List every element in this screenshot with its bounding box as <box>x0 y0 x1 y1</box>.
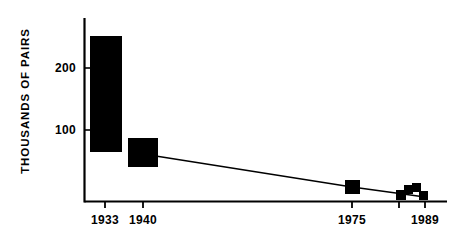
data-marker-1933-range-bar <box>90 36 122 152</box>
x-tick-label-1940: 1940 <box>120 213 166 227</box>
data-marker-1989-square-c <box>412 183 421 192</box>
data-marker-1989-square-b <box>404 185 413 194</box>
y-tick-label-100: 100 <box>40 123 76 137</box>
y-tick-label-200: 200 <box>40 61 76 75</box>
data-marker-1975-square <box>345 180 360 194</box>
data-connector-line <box>143 154 425 197</box>
data-marker-1940-square <box>128 138 158 167</box>
x-tick-label-1989: 1989 <box>402 213 448 227</box>
chart-plot-area <box>0 0 453 242</box>
chart-container: THOUSANDS OF PAIRS 200 100 1933 1940 197… <box>0 0 453 242</box>
data-marker-1989-square-d <box>419 191 428 200</box>
x-tick-label-1975: 1975 <box>329 213 375 227</box>
